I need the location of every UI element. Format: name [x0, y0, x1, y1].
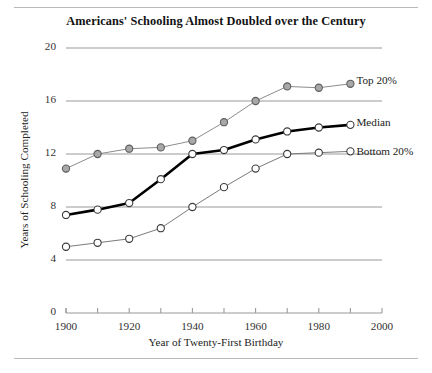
series-label-median: Median	[356, 116, 390, 128]
y-tick-label: 16	[28, 93, 56, 105]
x-tick-label: 1900	[39, 320, 93, 332]
x-tick-label: 1980	[292, 320, 346, 332]
series-layer	[62, 80, 354, 250]
y-tick-label: 20	[28, 40, 56, 52]
x-tick-label: 1960	[229, 320, 283, 332]
y-tick-label: 8	[28, 199, 56, 211]
x-tick-marks-group	[66, 308, 382, 313]
y-tick-label: 0	[28, 305, 56, 317]
y-tick-label: 4	[28, 252, 56, 264]
x-tick-label: 1940	[165, 320, 219, 332]
series-label-top: Top 20%	[356, 74, 397, 86]
chart-figure: Americans' Schooling Almost Doubled over…	[0, 0, 432, 373]
x-tick-label: 1920	[102, 320, 156, 332]
y-tick-label: 12	[28, 146, 56, 158]
plot-area	[0, 0, 432, 373]
x-axis-title: Year of Twenty-First Birthday	[0, 336, 432, 348]
series-label-bottom: Bottom 20%	[356, 145, 413, 157]
x-tick-label: 2000	[355, 320, 409, 332]
y-axis-title: Years of Schooling Completed	[18, 80, 30, 280]
